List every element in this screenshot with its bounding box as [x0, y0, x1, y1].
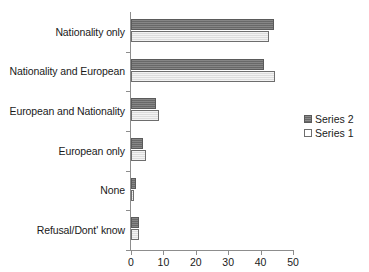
bar-series-1 [131, 190, 134, 201]
bar-series-1 [131, 229, 139, 240]
category-label: None [100, 184, 125, 196]
category-row: Nationality only [131, 12, 293, 52]
category-label: Nationality only [55, 26, 125, 38]
x-axis-tick-label: 30 [222, 256, 234, 268]
x-axis-line [130, 250, 294, 251]
category-label: European only [59, 145, 125, 157]
series-2-swatch [304, 115, 312, 123]
bar-series-1 [131, 110, 159, 121]
plot-area: Nationality onlyNationality and European… [131, 12, 293, 250]
bar-series-2 [131, 138, 143, 149]
category-row: European and Nationality [131, 91, 293, 131]
category-row: Nationality and European [131, 52, 293, 92]
chart-legend: Series 2 Series 1 [304, 112, 354, 140]
legend-label-series-1: Series 1 [315, 127, 354, 139]
category-label: European and Nationality [9, 105, 125, 117]
category-row: Refusal/Dont' know [131, 210, 293, 250]
bar-series-2 [131, 59, 264, 70]
x-axis-tick [228, 250, 229, 255]
bar-series-2 [131, 217, 139, 228]
x-axis-tick-label: 0 [128, 256, 134, 268]
category-label: Refusal/Dont' know [37, 224, 125, 236]
x-axis-tick [196, 250, 197, 255]
category-row: None [131, 171, 293, 211]
category-row: European only [131, 131, 293, 171]
legend-item-series-2: Series 2 [304, 112, 354, 126]
x-axis-tick [261, 250, 262, 255]
x-axis-tick [163, 250, 164, 255]
series-1-swatch [304, 129, 312, 137]
x-axis-tick-label: 10 [158, 256, 170, 268]
bar-chart: Nationality onlyNationality and European… [0, 0, 369, 272]
bar-series-2 [131, 98, 156, 109]
bar-series-1 [131, 31, 269, 42]
x-axis-tick-label: 50 [287, 256, 299, 268]
category-label: Nationality and European [9, 65, 125, 77]
legend-item-series-1: Series 1 [304, 126, 354, 140]
x-axis-tick [131, 250, 132, 255]
x-axis-tick-label: 40 [255, 256, 267, 268]
bar-series-2 [131, 19, 274, 30]
x-axis-tick [293, 250, 294, 255]
bar-series-1 [131, 150, 146, 161]
legend-label-series-2: Series 2 [315, 113, 354, 125]
x-axis-tick-label: 20 [190, 256, 202, 268]
bar-series-1 [131, 71, 275, 82]
bar-series-2 [131, 178, 136, 189]
